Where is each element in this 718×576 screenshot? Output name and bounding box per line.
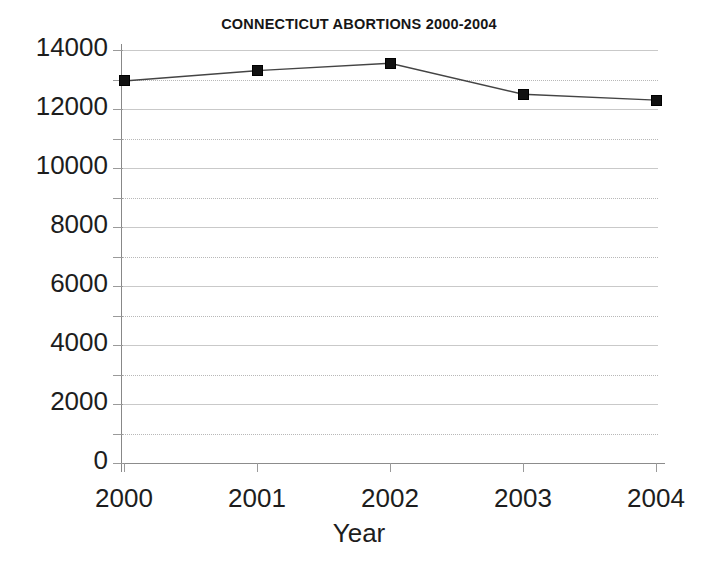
data-point-marker [385,58,396,69]
x-axis-tick [257,463,258,472]
x-axis-tick-label: 2001 [197,483,317,514]
plot-area [122,50,658,463]
y-axis-tick-label: 4000 [0,327,108,358]
x-axis-tick [390,463,391,472]
x-axis-tick-label: 2002 [330,483,450,514]
x-axis-tick-label: 2004 [596,483,716,514]
x-axis-tick [656,463,657,472]
x-axis-line [113,463,665,464]
y-axis-tick [113,463,123,464]
data-point-marker [252,65,263,76]
line-chart: CONNECTICUT ABORTIONS 2000-2004 02000400… [0,0,718,576]
x-axis-tick-label: 2000 [64,483,184,514]
y-axis-tick-label: 6000 [0,268,108,299]
data-point-marker [651,95,662,106]
y-axis-tick-label: 14000 [0,32,108,63]
y-axis-tick-label: 2000 [0,386,108,417]
y-axis-tick-label: 12000 [0,91,108,122]
data-point-marker [119,75,130,86]
series-polyline [124,63,656,100]
y-axis-tick-label: 0 [0,445,108,476]
y-axis-tick-label: 8000 [0,209,108,240]
chart-title: CONNECTICUT ABORTIONS 2000-2004 [0,16,718,32]
x-axis-tick [523,463,524,472]
x-axis-tick-label: 2003 [463,483,583,514]
x-axis-title: Year [0,518,718,549]
series-line [122,50,658,463]
data-point-marker [518,89,529,100]
y-axis-tick-label: 10000 [0,150,108,181]
x-axis-tick [124,463,125,472]
